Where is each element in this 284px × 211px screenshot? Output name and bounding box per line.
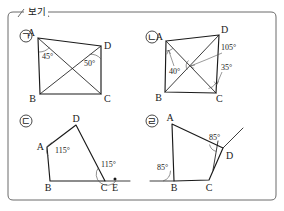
item-1-angle-label-a: 45° xyxy=(42,52,53,61)
item-3-angle-label-a: 115° xyxy=(55,146,70,155)
item-1-vertex-a: A xyxy=(28,27,36,38)
item-4-angle-arc-b xyxy=(163,171,171,181)
item-3-vertex-d: D xyxy=(72,113,79,124)
item-2-angle-arc-a xyxy=(166,49,173,52)
figures-canvas: ㄱ 45° 50° A D C B ㄴ xyxy=(0,0,284,211)
item-2-vertex-b: B xyxy=(155,92,162,103)
item-2-leader-a xyxy=(169,50,175,66)
item-4-angle-label-b: 85° xyxy=(157,163,168,172)
item-2-angle-label-c: 35° xyxy=(221,63,232,72)
item-1-vertex-d: D xyxy=(104,40,111,51)
item-1-angle-label-d: 50° xyxy=(84,59,95,68)
item-3-vertex-e: E xyxy=(112,182,118,193)
figure-item-1: ㄱ 45° 50° A D C B xyxy=(20,27,111,104)
item-4-angle-arc-d xyxy=(210,145,217,152)
item-2-angle-label-cross: 105° xyxy=(221,43,236,52)
box-label: 보기 xyxy=(26,6,48,18)
item-4-vertex-a: A xyxy=(166,112,174,123)
item-4-mark: ㄹ xyxy=(147,116,157,127)
figure-worksheet: 보기 ㄱ 45° 50° A D C B xyxy=(0,0,284,211)
item-2-angle-label-a: 40° xyxy=(169,67,180,76)
item-3-vertex-b: B xyxy=(45,182,52,193)
item-2-vertex-a: A xyxy=(156,31,164,42)
item-4-vertex-d: D xyxy=(226,150,233,161)
figure-item-4: ㄹ 85° 85° A D C B xyxy=(146,112,243,193)
item-4-angle-label-d: 85° xyxy=(209,133,220,142)
item-3-angle-label-c: 115° xyxy=(101,160,116,169)
item-1-vertex-c: C xyxy=(104,93,111,104)
item-4-vertex-b: B xyxy=(171,182,178,193)
item-4-vertex-c: C xyxy=(206,182,213,193)
item-3-vertex-c: C xyxy=(101,182,108,193)
item-3-vertex-a: A xyxy=(37,141,45,152)
item-2-vertex-d: D xyxy=(221,24,228,35)
figure-item-3: ㄷ 115° 115° A D C E B xyxy=(20,113,130,193)
item-3-point-e-dot xyxy=(114,178,117,181)
outer-box xyxy=(8,9,276,200)
item-3-mark: ㄷ xyxy=(21,116,31,127)
item-1-vertex-b: B xyxy=(29,93,36,104)
item-4-extension-ad xyxy=(223,128,243,148)
item-2-vertex-c: C xyxy=(216,93,223,104)
figure-item-2: ㄴ 40° 105° 35° A D C B xyxy=(146,24,236,104)
